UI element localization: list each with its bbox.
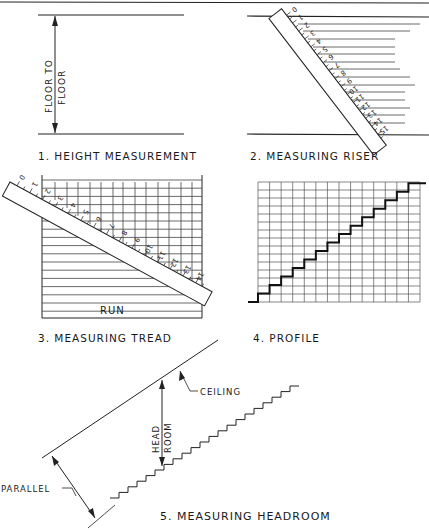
caption-1: 1. HEIGHT MEASUREMENT [38, 150, 197, 162]
panel-measuring-riser: 0123456789101112131415 2. MEASURING RISE… [247, 1, 429, 162]
svg-text:4: 4 [314, 36, 323, 45]
stair-nosing-line [110, 386, 299, 498]
svg-text:3: 3 [308, 28, 316, 37]
extension-line [88, 505, 115, 528]
panel-height-measurement: FLOOR TO FLOOR 1. HEIGHT MEASUREMENT [38, 15, 197, 162]
svg-text:5: 5 [320, 44, 328, 53]
svg-text:8: 8 [339, 68, 347, 77]
svg-text:8: 8 [119, 229, 128, 237]
svg-text:9: 9 [132, 236, 141, 244]
arrow-up-icon [159, 380, 165, 389]
svg-text:2: 2 [302, 21, 310, 30]
stair-profile-line [248, 183, 426, 302]
svg-text:7: 7 [107, 222, 116, 230]
svg-text:0: 0 [17, 173, 26, 181]
floor-to-label: FLOOR TO [44, 59, 54, 113]
svg-text:4: 4 [68, 201, 77, 209]
header-rule [0, 2, 429, 3]
arrow-up-icon [52, 16, 58, 26]
parallel-leader [62, 488, 76, 496]
room-label: ROOM [163, 422, 173, 453]
caption-3: 3. MEASURING TREAD [38, 332, 172, 344]
ceiling-line [42, 340, 218, 458]
run-label: RUN [100, 305, 125, 316]
arrow-down-icon [52, 123, 58, 133]
svg-text:9: 9 [345, 76, 353, 85]
stair-measurement-diagram: FLOOR TO FLOOR 1. HEIGHT MEASUREMENT 012… [0, 0, 429, 530]
tread-ruler: 01234567891011121314 [2, 171, 217, 305]
svg-text:1: 1 [296, 13, 304, 22]
riser-ruler: 0123456789101112131415 [269, 1, 396, 155]
svg-text:1: 1 [30, 180, 39, 188]
svg-text:12: 12 [168, 257, 179, 269]
ceiling-label: CEILING [200, 387, 241, 397]
panel-measuring-tread: 01234567891011121314 RUN 3. MEASURING TR… [2, 171, 217, 344]
parallel-dimension-line [52, 456, 95, 518]
floor-label: FLOOR [57, 70, 67, 105]
lower-floor-line [247, 134, 429, 135]
ceiling-leader [180, 371, 198, 391]
panel-profile: 4. PROFILE [248, 182, 426, 344]
svg-text:3: 3 [55, 194, 64, 202]
svg-text:11: 11 [155, 250, 166, 262]
svg-text:10: 10 [347, 84, 359, 96]
svg-text:10: 10 [143, 243, 154, 255]
svg-text:14: 14 [194, 270, 206, 282]
panel-measuring-headroom: HEAD ROOM CEILING PARALLEL 5. MEASURING … [1, 340, 331, 528]
caption-5: 5. MEASURING HEADROOM [160, 510, 331, 523]
svg-text:5: 5 [81, 208, 90, 216]
svg-text:7: 7 [333, 60, 341, 69]
caption-4: 4. PROFILE [253, 332, 320, 344]
parallel-label: PARALLEL [1, 484, 50, 494]
svg-text:6: 6 [93, 215, 102, 223]
head-label: HEAD [151, 425, 161, 453]
svg-text:0: 0 [290, 5, 298, 14]
svg-text:13: 13 [181, 264, 192, 276]
caption-2: 2. MEASURING RISER [250, 150, 379, 162]
